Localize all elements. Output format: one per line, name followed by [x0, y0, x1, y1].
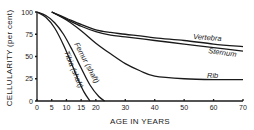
x-tick-label: 60 [210, 104, 218, 111]
series-label-rib: Rib [207, 71, 218, 80]
x-axis-title: AGE IN YEARS [110, 117, 170, 126]
x-tick-label: 20 [92, 104, 100, 111]
y-tick-label: 75 [25, 31, 33, 38]
x-tick-label: 50 [180, 104, 188, 111]
x-tick-label: 40 [151, 104, 159, 111]
x-tick-label: 10 [63, 104, 71, 111]
x-tick-label: 15 [77, 104, 85, 111]
series-label-vertebra: Vertebra [193, 32, 222, 43]
y-tick-label: 50 [25, 53, 33, 60]
series-label-sternum: Sternum [208, 46, 237, 59]
y-tick-label: 100 [21, 9, 33, 16]
y-axis-title: CELLULARITY (per cent) [5, 10, 14, 107]
y-tick-label: 0 [29, 98, 33, 105]
x-tick-label: 5 [50, 104, 54, 111]
cellularity-chart: 0255075100051015203040506070 Vertebra St… [0, 0, 254, 130]
x-tick-label: 0 [35, 104, 39, 111]
y-tick-label: 25 [25, 75, 33, 82]
x-tick-label: 30 [121, 104, 129, 111]
x-tick-label: 70 [239, 104, 247, 111]
